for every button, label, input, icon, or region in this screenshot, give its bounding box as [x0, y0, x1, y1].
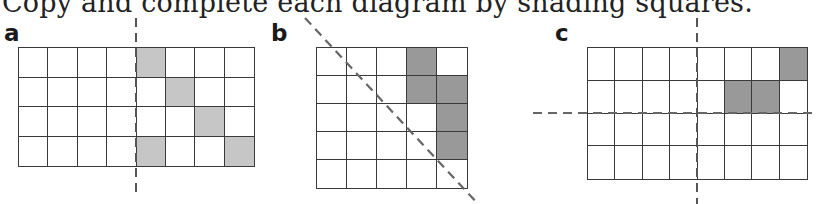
- grid-b-cell-r4-c0: [317, 160, 347, 188]
- grid-a-cell-r2-c2: [78, 107, 107, 137]
- grid-c-cell-shaded-r1-c5: [725, 81, 752, 114]
- grid-b-cell-r3-c0: [317, 132, 347, 160]
- grid-c-cell-r2-c5: [725, 114, 752, 147]
- grid-b-cell-shaded-r1-c4: [437, 76, 467, 104]
- grid-c-cell-r0-c1: [615, 48, 642, 81]
- grid-a-cell-r2-c0: [19, 107, 48, 137]
- grid-a-cell-r3-c1: [48, 137, 77, 167]
- grid-b-cell-r2-c3: [407, 104, 437, 132]
- grid-c-cell-r3-c6: [752, 146, 779, 179]
- grid-a-cell-r1-c6: [195, 78, 224, 108]
- panel-label-b: b: [271, 22, 287, 45]
- grid-a-cell-r2-c3: [107, 107, 136, 137]
- grid-a-cell-shaded-r3-c7: [225, 137, 254, 167]
- grid-c-cell-r1-c0: [588, 81, 615, 114]
- grid-c-cell-r1-c7: [780, 81, 807, 114]
- grid-c-cell-r1-c3: [670, 81, 697, 114]
- grid-c-cell-r3-c2: [643, 146, 670, 179]
- grid-b-cell-shaded-r1-c3: [407, 76, 437, 104]
- grid-c-cell-r1-c2: [643, 81, 670, 114]
- grid-a-cell-r3-c0: [19, 137, 48, 167]
- grid-b-cell-shaded-r0-c3: [407, 48, 437, 76]
- grid-c-cell-shaded-r1-c6: [752, 81, 779, 114]
- panel-label-c: c: [555, 22, 569, 45]
- grid-c-cell-r2-c2: [643, 114, 670, 147]
- grid-c-cell-r3-c3: [670, 146, 697, 179]
- grid-a-cell-r2-c1: [48, 107, 77, 137]
- grid-a-cell-r0-c5: [166, 48, 195, 78]
- grid-a-cell-r0-c3: [107, 48, 136, 78]
- grid-c-cell-r3-c1: [615, 146, 642, 179]
- grid-c-cell-r2-c4: [698, 114, 725, 147]
- grid-b-cell-r1-c2: [377, 76, 407, 104]
- grid-b-cell-r1-c1: [347, 76, 377, 104]
- grid-b-cell-r3-c1: [347, 132, 377, 160]
- grid-a-cell-r2-c4: [137, 107, 166, 137]
- grid-b-cell-r4-c2: [377, 160, 407, 188]
- grid-c-cell-shaded-r0-c7: [780, 48, 807, 81]
- grid-c-cell-r3-c5: [725, 146, 752, 179]
- grid-b-cell-r0-c0: [317, 48, 347, 76]
- grid-b-cell-r0-c4: [437, 48, 467, 76]
- grid-c-cell-r2-c7: [780, 114, 807, 147]
- grid-a-cell-r0-c6: [195, 48, 224, 78]
- grid-b-cell-r4-c1: [347, 160, 377, 188]
- grid-c-cell-r2-c1: [615, 114, 642, 147]
- grid-a-cell-r1-c4: [137, 78, 166, 108]
- grid-c-cell-r3-c4: [698, 146, 725, 179]
- grid-c-cell-r1-c1: [615, 81, 642, 114]
- grid-b-cell-shaded-r2-c4: [437, 104, 467, 132]
- panel-label-a: a: [4, 22, 20, 45]
- grid-c-cell-r3-c0: [588, 146, 615, 179]
- grid-b-cell-r4-c3: [407, 160, 437, 188]
- grid-a-cell-r0-c0: [19, 48, 48, 78]
- grid-a-cell-r0-c1: [48, 48, 77, 78]
- grid-b-cell-r3-c3: [407, 132, 437, 160]
- grid-b: [316, 47, 468, 189]
- grid-a-cell-r1-c7: [225, 78, 254, 108]
- grid-a-cell-r2-c7: [225, 107, 254, 137]
- grid-c-cell-r0-c2: [643, 48, 670, 81]
- grid-b-cell-r1-c0: [317, 76, 347, 104]
- grid-b-cell-r2-c1: [347, 104, 377, 132]
- grid-a-cell-r1-c0: [19, 78, 48, 108]
- grid-a-cell-r1-c2: [78, 78, 107, 108]
- grid-c-cell-r0-c0: [588, 48, 615, 81]
- grid-a-cell-r1-c3: [107, 78, 136, 108]
- grid-a-cell-r0-c2: [78, 48, 107, 78]
- grid-c-cell-r2-c3: [670, 114, 697, 147]
- grid-c-cell-r0-c5: [725, 48, 752, 81]
- grid-a-cell-r3-c6: [195, 137, 224, 167]
- grid-c-cell-r0-c3: [670, 48, 697, 81]
- grid-c-cell-r1-c4: [698, 81, 725, 114]
- grid-c-cell-r0-c6: [752, 48, 779, 81]
- grid-b-cell-r0-c1: [347, 48, 377, 76]
- grid-a-cell-shaded-r2-c6: [195, 107, 224, 137]
- instruction-heading: Copy and complete each diagram by shadin…: [2, 0, 753, 18]
- grid-a-cell-shaded-r1-c5: [166, 78, 195, 108]
- grid-b-cell-r4-c4: [437, 160, 467, 188]
- grid-c-cell-r0-c4: [698, 48, 725, 81]
- grid-a-cell-r2-c5: [166, 107, 195, 137]
- grid-b-cell-r0-c2: [377, 48, 407, 76]
- grid-a-cell-r3-c5: [166, 137, 195, 167]
- grid-a-cell-r3-c2: [78, 137, 107, 167]
- grid-a-cell-r1-c1: [48, 78, 77, 108]
- grid-b-cell-shaded-r3-c4: [437, 132, 467, 160]
- grid-a-cell-r3-c3: [107, 137, 136, 167]
- grid-b-cell-r2-c2: [377, 104, 407, 132]
- grid-a-cell-r0-c7: [225, 48, 254, 78]
- grid-a-cell-shaded-r3-c4: [137, 137, 166, 167]
- grid-a: [18, 47, 255, 167]
- grid-a-cell-shaded-r0-c4: [137, 48, 166, 78]
- grid-b-cell-r3-c2: [377, 132, 407, 160]
- grid-c-cell-r3-c7: [780, 146, 807, 179]
- grid-b-cell-r2-c0: [317, 104, 347, 132]
- grid-c-cell-r2-c0: [588, 114, 615, 147]
- grid-c: [587, 47, 808, 180]
- grid-c-cell-r2-c6: [752, 114, 779, 147]
